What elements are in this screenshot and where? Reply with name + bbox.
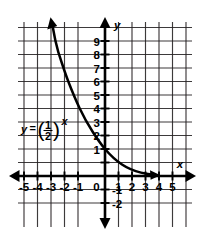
y-tick-label-5: 5 <box>94 90 101 102</box>
y-tick-label-4: 4 <box>94 103 101 115</box>
y-tick-label-3: 3 <box>94 117 100 129</box>
x-tick-label--3: -3 <box>46 181 56 193</box>
y-axis-label: y <box>113 19 121 31</box>
x-tick-label--2: -2 <box>59 181 69 193</box>
y-tick-label-9: 9 <box>94 36 100 48</box>
x-tick-label--4: -4 <box>32 181 43 193</box>
y-tick-label-6: 6 <box>94 76 100 88</box>
y-tick-label--1: -1 <box>112 184 123 196</box>
x-tick-label-4: 4 <box>156 181 163 193</box>
y-tick-label--2: -2 <box>112 198 122 210</box>
y-tick-label-8: 8 <box>94 49 101 61</box>
x-tick-label-2: 2 <box>129 181 135 193</box>
equation-fraction-denominator: 2 <box>45 130 51 142</box>
equation-right-paren: ) <box>53 118 60 141</box>
y-tick-label-7: 7 <box>94 63 100 75</box>
equation-lhs: y <box>20 123 28 135</box>
equation-left-paren: ( <box>38 118 45 141</box>
figure-background <box>0 0 205 236</box>
x-tick-label-5: 5 <box>169 181 176 193</box>
x-tick-label--5: -5 <box>19 181 30 193</box>
equation-equals-sign: = <box>30 122 36 134</box>
x-tick-label-3: 3 <box>142 181 148 193</box>
x-axis-label: x <box>176 158 184 170</box>
y-tick-label-1: 1 <box>94 144 101 156</box>
equation-exponent: x <box>61 115 69 127</box>
x-tick-label--1: -1 <box>73 181 84 193</box>
graph-figure: -5 -4 -3 -2 -1 0 1 2 3 4 5 9 8 7 6 5 4 3… <box>0 0 205 236</box>
x-tick-label-0: 0 <box>93 181 99 193</box>
